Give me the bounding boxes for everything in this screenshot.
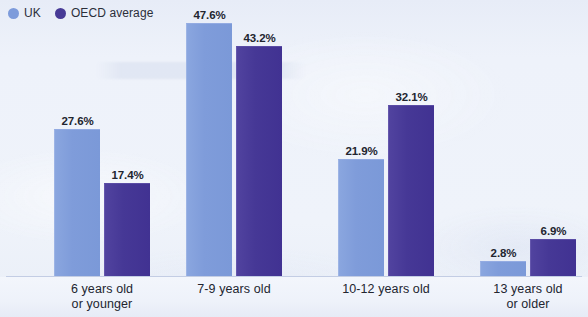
bar-group-6-years-old-or-younger: 27.6% 17.4%	[54, 0, 150, 277]
category-label-group1: 6 years old or younger	[42, 282, 162, 312]
bar-uk-group1[interactable]: 27.6%	[54, 129, 100, 276]
legend-swatch-uk	[8, 8, 19, 19]
category-label-group1-line1: 6 years old	[42, 282, 162, 297]
bar-group-10-12-years-old: 21.9% 32.1%	[338, 0, 434, 277]
bar-uk-group2[interactable]: 47.6%	[186, 23, 232, 276]
bar-oecd-group4[interactable]: 6.9%	[530, 239, 576, 276]
category-label-group1-line2: or younger	[42, 297, 162, 312]
legend-item-oecd-average[interactable]: OECD average	[55, 6, 154, 20]
category-label-group4-line1: 13 years old	[468, 282, 588, 297]
bar-oecd-group2[interactable]: 43.2%	[236, 46, 282, 276]
bar-value-uk-group1: 27.6%	[61, 115, 93, 127]
bar-oecd-group3[interactable]: 32.1%	[388, 105, 434, 276]
bar-value-uk-group4: 2.8%	[491, 247, 517, 259]
bar-uk-group4[interactable]: 2.8%	[480, 261, 526, 276]
category-label-group3: 10-12 years old	[326, 282, 446, 297]
bar-value-uk-group2: 47.6%	[193, 9, 225, 21]
legend-label-uk: UK	[24, 6, 41, 20]
plot-area: 27.6% 17.4% 47.6% 43.2%	[0, 0, 588, 277]
axis-baseline	[6, 276, 582, 277]
legend-swatch-oecd-average	[55, 8, 66, 19]
category-label-band: 6 years old or younger 7-9 years old 10-…	[0, 277, 588, 317]
bar-value-oecd-group4: 6.9%	[541, 225, 567, 237]
legend-label-oecd-average: OECD average	[71, 6, 154, 20]
bar-value-uk-group3: 21.9%	[345, 145, 377, 157]
bar-uk-group3[interactable]: 21.9%	[338, 159, 384, 276]
bar-oecd-group1[interactable]: 17.4%	[104, 183, 150, 276]
category-label-group2-line1: 7-9 years old	[174, 282, 294, 297]
bar-chart: UK OECD average 27.6% 17.4%	[0, 0, 588, 317]
legend-item-uk[interactable]: UK	[8, 6, 41, 20]
bar-value-oecd-group1: 17.4%	[111, 169, 143, 181]
bar-group-13-years-old-or-older: 2.8% 6.9%	[480, 0, 576, 277]
bar-group-7-9-years-old: 47.6% 43.2%	[186, 0, 282, 277]
bar-value-oecd-group2: 43.2%	[243, 32, 275, 44]
category-label-group4: 13 years old or older	[468, 282, 588, 312]
category-label-group4-line2: or older	[468, 297, 588, 312]
category-label-group2: 7-9 years old	[174, 282, 294, 297]
bar-value-oecd-group3: 32.1%	[395, 91, 427, 103]
chart-legend: UK OECD average	[8, 6, 153, 20]
category-label-group3-line1: 10-12 years old	[326, 282, 446, 297]
